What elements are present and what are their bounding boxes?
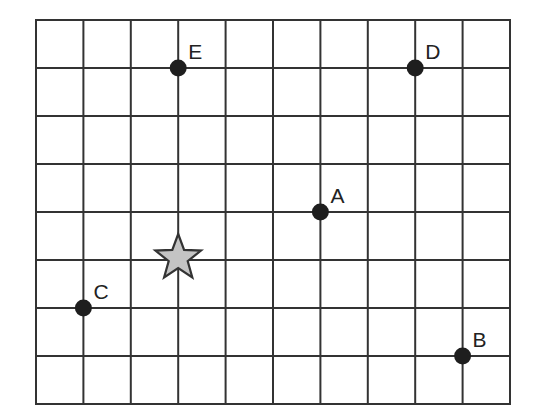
point-dot [75, 300, 92, 317]
grid-lines [35, 19, 511, 405]
points: ABCDE [75, 40, 487, 365]
point-dot [407, 60, 424, 77]
point-dot [312, 204, 329, 221]
point-dot [454, 348, 471, 365]
point-label: A [330, 184, 344, 207]
point-label: E [188, 40, 202, 63]
point-e: E [170, 40, 203, 77]
point-label: B [473, 328, 487, 351]
point-label: C [93, 280, 108, 303]
point-d: D [407, 40, 441, 77]
point-dot [170, 60, 187, 77]
coordinate-grid: ABCDE [0, 0, 535, 420]
point-b: B [454, 328, 487, 365]
point-a: A [312, 184, 345, 221]
point-c: C [75, 280, 109, 317]
point-label: D [425, 40, 440, 63]
